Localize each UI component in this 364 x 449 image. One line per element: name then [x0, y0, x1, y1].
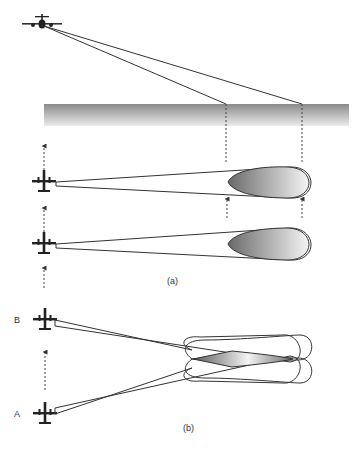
aircraft-icon	[32, 232, 56, 254]
panel-a-caption: (a)	[167, 276, 178, 286]
beam-edge-line	[44, 26, 226, 104]
panel-b	[33, 308, 312, 424]
aircraft-icon	[32, 170, 56, 192]
position-label-a: A	[14, 409, 20, 419]
overlap-region	[193, 351, 293, 367]
position-label-b: B	[14, 315, 20, 325]
radar-geometry-diagram: (a) B A (b)	[0, 0, 364, 449]
aircraft-icon-a	[33, 402, 57, 424]
beam-footprint-lobe	[228, 228, 309, 260]
aircraft-icon	[22, 14, 62, 29]
beam-edge-line	[44, 26, 302, 104]
aircraft-icon-b	[33, 308, 57, 330]
beam-envelope-a	[55, 356, 300, 414]
panel-a	[22, 14, 349, 288]
beam-footprint-lobe	[228, 167, 309, 198]
ground-strip	[44, 104, 349, 126]
panel-b-caption: (b)	[183, 423, 194, 433]
